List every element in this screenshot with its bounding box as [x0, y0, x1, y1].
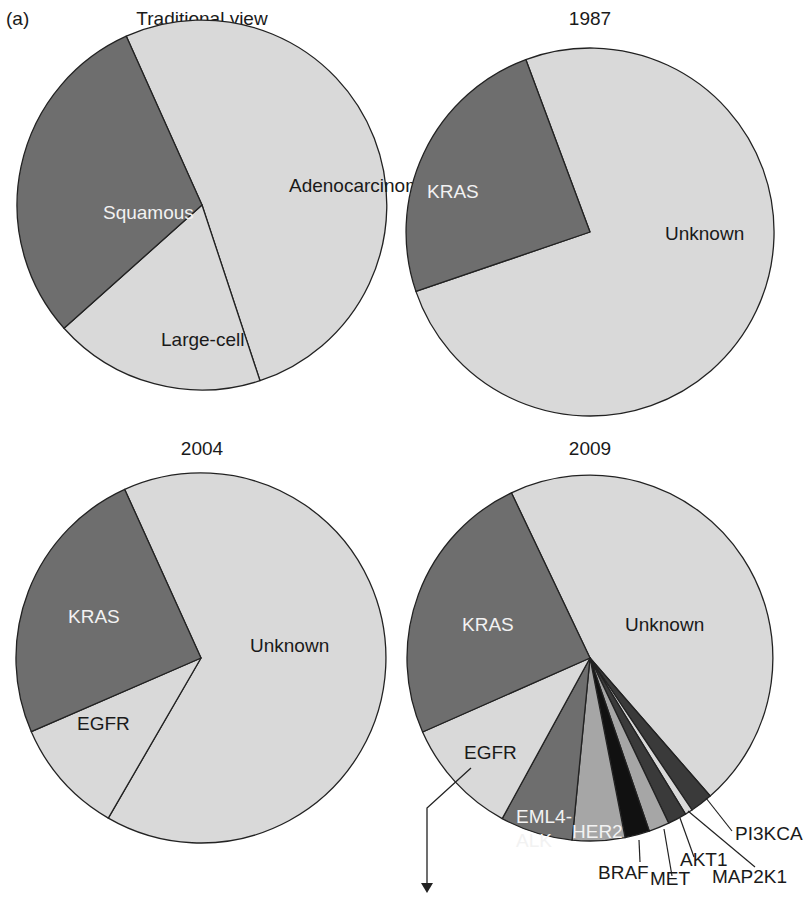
pie-chart-figure: (a) Traditional viewAdenocarcinomaLarge-… — [0, 0, 808, 908]
slice-label: Unknown — [625, 614, 704, 635]
slice-label: PI3KCA — [735, 823, 803, 844]
slice-label: AKT1 — [680, 849, 728, 870]
leader-line — [639, 840, 640, 862]
arrow-head-icon — [421, 883, 433, 893]
slice-label: Unknown — [250, 635, 329, 656]
slice-label: EGFR — [77, 713, 130, 734]
slice-label: EML4- — [516, 806, 572, 827]
pie-traditional-view: Traditional viewAdenocarcinomaLarge-cell… — [17, 8, 432, 390]
slice-label: BRAF — [598, 862, 649, 883]
pie-title: 2009 — [569, 438, 611, 459]
slice-label: MET — [650, 868, 691, 889]
slice-label: HER2 — [572, 821, 623, 842]
slice-label: EGFR — [464, 742, 517, 763]
pie-1987: 1987UnknownKRAS — [406, 8, 774, 416]
slice-label: Large-cell — [161, 329, 244, 350]
pie-title: 1987 — [569, 8, 611, 29]
slice-label: KRAS — [462, 614, 514, 635]
slice-label: KRAS — [68, 606, 120, 627]
pie-2004: 2004UnknownEGFRKRAS — [16, 438, 386, 843]
panel-label: (a) — [6, 8, 29, 29]
pie-title: 2004 — [181, 438, 224, 459]
pie-2009: 2009UnknownPI3KCAMAP2K1AKT1METBRAFHER2EM… — [407, 438, 803, 893]
slice-label: Squamous — [103, 202, 194, 223]
slice-label: Unknown — [665, 223, 744, 244]
slice-label: KRAS — [427, 181, 479, 202]
slice-label: ALK — [516, 830, 552, 851]
leader-line — [706, 798, 732, 831]
